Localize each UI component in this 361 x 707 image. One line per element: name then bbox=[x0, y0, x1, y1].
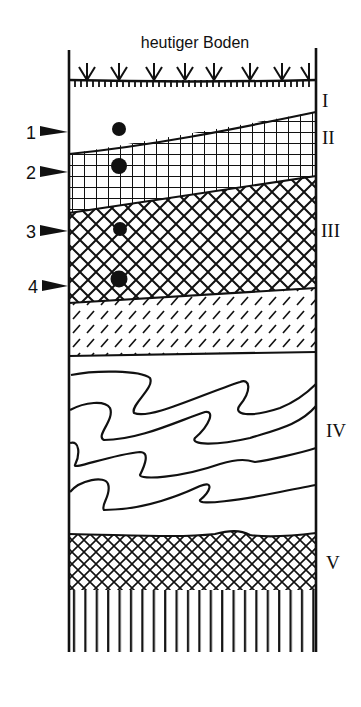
layer-label-II: II bbox=[322, 127, 335, 148]
sample-dot-2 bbox=[111, 158, 127, 174]
layer-label-IV: IV bbox=[326, 420, 346, 441]
arrow-3-icon bbox=[40, 225, 68, 236]
layer-label-V: V bbox=[326, 552, 340, 573]
arrow-1-icon bbox=[40, 126, 68, 136]
marker-1: 1 bbox=[26, 123, 36, 143]
marker-arrows bbox=[40, 126, 68, 291]
sample-dot-3 bbox=[113, 222, 127, 236]
layer-label-I: I bbox=[322, 90, 328, 111]
sample-dot-4 bbox=[111, 271, 128, 288]
layer-V bbox=[69, 531, 316, 590]
ground-surface bbox=[69, 63, 316, 87]
marker-2: 2 bbox=[26, 163, 36, 183]
layer-IV bbox=[70, 372, 316, 510]
layer-base bbox=[69, 590, 316, 652]
grass-icons bbox=[79, 63, 313, 80]
stratigraphic-profile: 1 2 3 4 I II III IV V bbox=[0, 0, 361, 707]
layer-label-III: III bbox=[321, 220, 340, 241]
marker-3: 3 bbox=[26, 222, 36, 242]
arrow-4-icon bbox=[42, 280, 68, 291]
marker-4: 4 bbox=[28, 277, 38, 297]
sample-dot-1 bbox=[112, 122, 126, 136]
arrow-2-icon bbox=[40, 166, 68, 177]
